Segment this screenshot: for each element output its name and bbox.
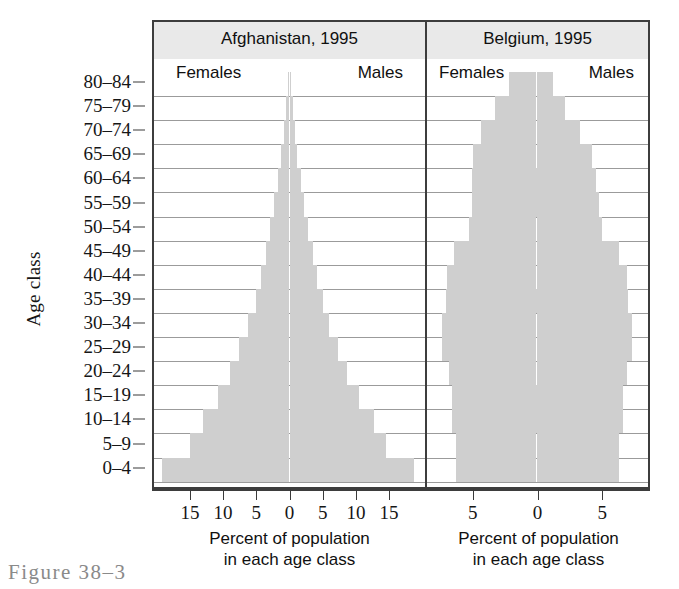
- bar-males-30-34: [290, 313, 330, 337]
- y-tick-mark: [133, 371, 145, 372]
- bar-males-55-59: [537, 192, 599, 216]
- y-tick-label-10-14: 10–14: [21, 408, 131, 430]
- bar-females-60-64: [278, 168, 290, 192]
- bar-females-30-34: [248, 313, 289, 337]
- y-tick-mark: [133, 395, 145, 396]
- panel-belgium: Belgium, 1995 Females Males: [427, 22, 648, 487]
- bar-females-55-59: [472, 192, 537, 216]
- bar-females-15-19: [452, 385, 536, 409]
- x-tick-mark: [473, 489, 474, 500]
- y-tick-label-35-39: 35–39: [21, 288, 131, 310]
- plot-area-belgium: [427, 22, 648, 487]
- bar-males-25-29: [537, 337, 633, 361]
- y-tick-mark: [133, 443, 145, 444]
- bar-females-35-39: [256, 289, 290, 313]
- y-tick-label-75-79: 75–79: [21, 95, 131, 117]
- bar-males-5-9: [290, 433, 387, 457]
- panel-afghanistan: Afghanistan, 1995 Females Males: [154, 22, 427, 487]
- x-tick-mark: [602, 489, 603, 500]
- y-tick-mark: [133, 154, 145, 155]
- bar-males-35-39: [290, 289, 323, 313]
- bar-females-60-64: [472, 168, 537, 192]
- x-tick-label: 0: [518, 502, 558, 524]
- bar-males-50-54: [290, 217, 309, 241]
- y-tick-label-65-69: 65–69: [21, 143, 131, 165]
- bar-males-5-9: [537, 433, 620, 457]
- bar-males-80-84: [537, 72, 554, 96]
- y-tick-label-70-74: 70–74: [21, 119, 131, 141]
- x-tick-label: 5: [582, 502, 622, 524]
- bar-males-45-49: [290, 241, 313, 265]
- bar-females-5-9: [190, 433, 290, 457]
- x-tick-mark: [290, 489, 291, 500]
- bar-males-10-14: [290, 409, 374, 433]
- y-tick-mark: [133, 419, 145, 420]
- x-tick-mark: [190, 489, 191, 500]
- bar-males-75-79: [290, 96, 293, 120]
- bar-females-35-39: [446, 289, 537, 313]
- y-tick-mark: [133, 178, 145, 179]
- y-tick-mark: [133, 250, 145, 251]
- bar-females-25-29: [239, 337, 289, 361]
- gridline: [154, 482, 425, 483]
- y-tick-label-45-49: 45–49: [21, 240, 131, 262]
- bar-males-60-64: [537, 168, 597, 192]
- bar-females-65-69: [281, 144, 290, 168]
- bar-males-15-19: [537, 385, 624, 409]
- plot-area-afghanistan: [154, 22, 425, 487]
- males-label-afghanistan: Males: [358, 63, 403, 83]
- bar-females-50-54: [270, 217, 289, 241]
- bar-females-30-34: [442, 313, 536, 337]
- bar-males-45-49: [537, 241, 620, 265]
- bar-females-65-69: [473, 144, 536, 168]
- y-axis-ticks: 0–45–910–1415–1920–2425–2930–3435–3940–4…: [40, 60, 145, 490]
- bar-females-0-4: [162, 458, 290, 482]
- bar-females-10-14: [452, 409, 536, 433]
- x-axis-title-line1: Percent of population: [427, 528, 650, 549]
- bar-females-80-84: [509, 72, 536, 96]
- bar-males-75-79: [537, 96, 565, 120]
- y-tick-mark: [133, 106, 145, 107]
- bar-males-65-69: [537, 144, 593, 168]
- y-tick-mark: [133, 323, 145, 324]
- figure-caption: Figure 38–3: [8, 560, 127, 585]
- gridline: [427, 482, 648, 483]
- x-axis-title-afghanistan: Percent of population in each age class: [152, 528, 427, 570]
- y-tick-label-15-19: 15–19: [21, 384, 131, 406]
- y-tick-mark: [133, 467, 145, 468]
- y-tick-label-60-64: 60–64: [21, 167, 131, 189]
- x-axis-belgium: 505: [427, 489, 650, 515]
- bar-males-55-59: [290, 192, 305, 216]
- bar-females-45-49: [454, 241, 537, 265]
- x-tick-mark: [323, 489, 324, 500]
- bar-females-50-54: [469, 217, 536, 241]
- y-tick-label-20-24: 20–24: [21, 360, 131, 382]
- x-axis-title-line1: Percent of population: [152, 528, 427, 549]
- bar-females-25-29: [442, 337, 536, 361]
- y-tick-label-25-29: 25–29: [21, 336, 131, 358]
- bar-females-15-19: [218, 385, 290, 409]
- x-tick-mark: [538, 489, 539, 500]
- bar-males-10-14: [537, 409, 624, 433]
- chart-panels: Afghanistan, 1995 Females Males Belgium,…: [152, 20, 650, 489]
- bar-females-55-59: [274, 192, 289, 216]
- y-tick-label-40-44: 40–44: [21, 264, 131, 286]
- panel-title-afghanistan: Afghanistan, 1995: [154, 29, 425, 49]
- y-tick-mark: [133, 202, 145, 203]
- bar-males-25-29: [290, 337, 338, 361]
- population-pyramid-figure: Age class 0–45–910–1415–1920–2425–2930–3…: [0, 0, 679, 589]
- x-axis-afghanistan: 15105051015: [152, 489, 427, 515]
- x-tick-label: 5: [453, 502, 493, 524]
- x-axis-title-line2: in each age class: [152, 549, 427, 570]
- bar-males-0-4: [537, 458, 620, 482]
- y-tick-label-55-59: 55–59: [21, 192, 131, 214]
- bar-females-5-9: [456, 433, 536, 457]
- x-tick-mark: [223, 489, 224, 500]
- y-tick-label-80-84: 80–84: [21, 71, 131, 93]
- bar-males-40-44: [290, 265, 318, 289]
- y-tick-mark: [133, 298, 145, 299]
- bar-males-65-69: [290, 144, 298, 168]
- bar-males-0-4: [290, 458, 415, 482]
- y-tick-label-50-54: 50–54: [21, 216, 131, 238]
- bar-females-75-79: [495, 96, 536, 120]
